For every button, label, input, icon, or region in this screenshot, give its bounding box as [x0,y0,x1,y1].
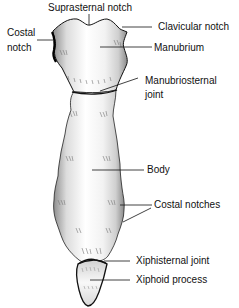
label-manubrium: Manubrium [154,42,204,53]
label-xiphoid-process: Xiphoid process [136,274,207,285]
label-costal-notches: Costal notches [154,199,220,210]
label-clavicular-notch: Clavicular notch [158,21,229,32]
label-costal-notch-line1: Costal [7,27,35,38]
label-body: Body [147,164,170,175]
manubrium-shape [53,19,127,93]
label-manubriosternal-joint-line2: joint [144,89,164,100]
sternum-diagram: Suprasternal notch Clavicular notch Cost… [0,0,239,308]
label-suprasternal-notch: Suprasternal notch [48,2,132,13]
label-costal-notch-line2: notch [7,42,31,53]
label-xiphisternal-joint: Xiphisternal joint [136,255,210,266]
leader-costal-notches-b [123,208,151,222]
body-shape [54,90,125,263]
xiphoid-shape [76,259,107,306]
label-manubriosternal-joint-line1: Manubriosternal [145,75,217,86]
